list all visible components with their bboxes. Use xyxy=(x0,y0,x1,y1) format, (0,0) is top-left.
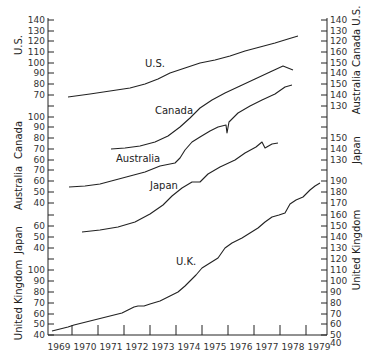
right-tick-label: 150 xyxy=(330,79,347,89)
x-tick-label: 1977 xyxy=(256,342,279,352)
right-axis-title-japan: Japan xyxy=(351,136,362,165)
series-line-canada xyxy=(111,66,293,149)
right-tick-label: 190 xyxy=(330,176,347,186)
left-tick-label: 100 xyxy=(28,58,45,68)
left-tick-label: 80 xyxy=(34,79,46,89)
x-tick-label: 1978 xyxy=(282,342,305,352)
left-tick-label: 60 xyxy=(34,155,46,165)
x-tick-label: 1970 xyxy=(74,342,97,352)
x-tick-label: 1974 xyxy=(178,342,201,352)
left-tick-label: 100 xyxy=(28,112,45,122)
left-tick-label: 130 xyxy=(28,26,45,36)
right-axis-title-uk: United Kingdom xyxy=(351,210,362,290)
right-tick-label: 100 xyxy=(330,276,347,286)
left-tick-label: 90 xyxy=(34,276,46,286)
right-tick-label: 160 xyxy=(330,210,347,220)
series-label-australia: Australia xyxy=(116,153,160,164)
right-tick-label: 180 xyxy=(330,187,347,197)
left-tick-label: 80 xyxy=(34,133,46,143)
right-tick-label: 150 xyxy=(330,221,347,231)
left-tick-label: 80 xyxy=(34,287,46,297)
right-tick-label: 140 xyxy=(330,68,347,78)
right-tick-label: 70 xyxy=(330,309,342,319)
right-tick-label: 130 xyxy=(330,155,347,165)
left-tick-label: 70 xyxy=(34,165,46,175)
right-axis-title-us-canada-australia: Australia Canada U.S. xyxy=(351,6,362,115)
left-axis-title-us: U.S. xyxy=(13,35,24,55)
left-tick-label: 60 xyxy=(34,309,46,319)
left-axis-title-canada: Canada xyxy=(13,121,24,159)
left-tick-label: 90 xyxy=(34,68,46,78)
series-label-japan: Japan xyxy=(149,180,178,191)
left-tick-label: 100 xyxy=(28,265,45,275)
left-tick-label: 120 xyxy=(28,36,45,46)
right-tick-label: 60 xyxy=(330,319,342,329)
x-tick-label: 1975 xyxy=(204,342,227,352)
x-tick-label: 1979 xyxy=(308,342,331,352)
right-tick-label: 140 xyxy=(330,144,347,154)
x-tick-label: 1972 xyxy=(126,342,149,352)
right-tick-label: 140 xyxy=(330,90,347,100)
left-tick-label: 90 xyxy=(34,122,46,132)
right-tick-label: 120 xyxy=(330,36,347,46)
series-line-australia xyxy=(69,85,292,187)
right-tick-label: 160 xyxy=(330,47,347,57)
series-label-canada: Canada xyxy=(155,105,193,116)
x-tick-label: 1973 xyxy=(152,342,175,352)
left-axis-title-australia: Australia xyxy=(13,166,24,210)
left-tick-label: 50 xyxy=(34,232,46,242)
left-tick-label: 70 xyxy=(34,144,46,154)
left-tick-label: 40 xyxy=(34,243,46,253)
x-tick-label: 1969 xyxy=(48,342,71,352)
right-tick-label: 140 xyxy=(330,15,347,25)
series-label-uk: U.K. xyxy=(176,256,196,267)
left-tick-label: 60 xyxy=(34,176,46,186)
x-tick-label: 1976 xyxy=(230,342,253,352)
right-tick-label: 40 xyxy=(330,338,342,348)
right-tick-label: 110 xyxy=(330,265,347,275)
right-tick-label: 150 xyxy=(330,58,347,68)
right-tick-label: 130 xyxy=(330,243,347,253)
right-tick-label: 120 xyxy=(330,254,347,264)
left-axis-title-japan: Japan xyxy=(13,226,24,255)
left-tick-label: 40 xyxy=(34,330,46,340)
right-tick-label: 80 xyxy=(330,298,342,308)
right-tick-label: 90 xyxy=(330,287,342,297)
right-tick-label: 150 xyxy=(330,133,347,143)
left-tick-label: 110 xyxy=(28,47,45,57)
right-tick-label: 130 xyxy=(330,101,347,111)
left-tick-label: 70 xyxy=(34,90,46,100)
left-tick-label: 40 xyxy=(34,198,46,208)
left-tick-label: 50 xyxy=(34,187,46,197)
x-tick-label: 1971 xyxy=(100,342,123,352)
multi-country-index-chart: 1401301201101009080701009080706070605040… xyxy=(0,0,375,361)
series-line-us xyxy=(68,36,298,97)
right-tick-label: 140 xyxy=(330,232,347,242)
left-tick-label: 70 xyxy=(34,298,46,308)
left-tick-label: 140 xyxy=(28,15,45,25)
right-tick-label: 130 xyxy=(330,26,347,36)
left-tick-label: 60 xyxy=(34,221,46,231)
right-tick-label: 170 xyxy=(330,198,347,208)
series-label-us: U.S. xyxy=(145,58,165,69)
left-axis-title-uk: United Kingdom xyxy=(13,260,24,340)
left-tick-label: 50 xyxy=(34,319,46,329)
series-line-japan xyxy=(82,142,278,232)
